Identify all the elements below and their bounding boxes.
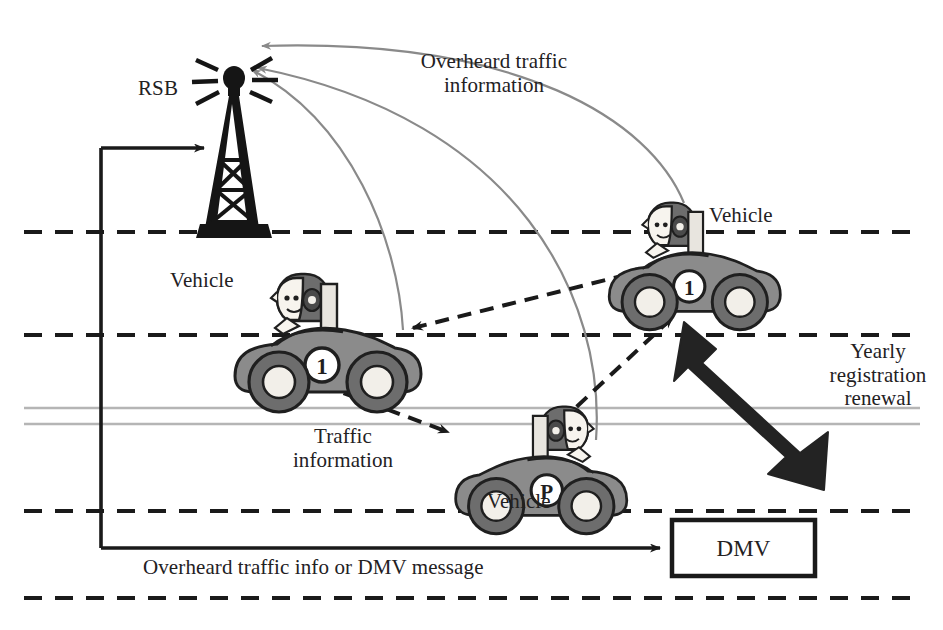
yearly-line-2: registration bbox=[830, 363, 927, 387]
vehicle-1: 1 bbox=[235, 274, 421, 412]
vehicle-bottom-label: Vehicle bbox=[487, 490, 551, 514]
bottom-caption-label: Overheard traffic info or DMV message bbox=[143, 556, 484, 580]
rsb-label: RSB bbox=[138, 77, 178, 101]
vehicle-left-label: Vehicle bbox=[170, 269, 234, 293]
driver-figure-1 bbox=[271, 274, 337, 334]
svg-text:1: 1 bbox=[684, 276, 695, 300]
vehicle-top-label: Vehicle bbox=[709, 204, 773, 228]
traffic-line-1: Traffic bbox=[314, 424, 372, 448]
registration-double-arrow bbox=[674, 322, 828, 490]
vehicle-3: P bbox=[456, 407, 627, 534]
yearly-line-1: Yearly bbox=[850, 339, 906, 363]
overheard-traffic-label: Overheard trafficinformation bbox=[386, 50, 602, 97]
yearly-line-3: renewal bbox=[844, 386, 911, 410]
overheard-traffic-line-1: Overheard traffic bbox=[421, 49, 567, 73]
driver-figure-3 bbox=[533, 407, 594, 462]
rsb-tower-icon bbox=[192, 58, 278, 238]
yearly-registration-label: Yearlyregistrationrenewal bbox=[816, 340, 940, 411]
dmv-label: DMV bbox=[672, 536, 815, 562]
diagram-canvas: 1 1 bbox=[0, 0, 943, 630]
driver-figure-2 bbox=[642, 203, 703, 258]
traffic-line-2: information bbox=[293, 448, 393, 472]
svg-text:1: 1 bbox=[316, 354, 328, 379]
traffic-information-label: Trafficinformation bbox=[268, 425, 418, 472]
overheard-traffic-line-2: information bbox=[444, 73, 544, 97]
